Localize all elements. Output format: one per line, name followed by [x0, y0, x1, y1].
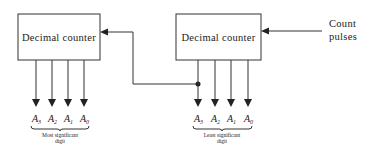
msd-bit-labels: A3 A2 A1 A0 Most significant digit	[31, 113, 89, 144]
lsd-output-lines	[194, 60, 252, 107]
pulses-label: pulses	[329, 31, 357, 42]
brace-icon	[31, 126, 89, 131]
counter-label-lsd: Decimal counter	[181, 32, 255, 43]
arrow-left-icon	[100, 29, 108, 36]
brace-icon	[193, 126, 252, 131]
lsd-bit-labels: A3 A2 A1 A0 Least significant digit	[193, 113, 253, 144]
arrow-down-icon	[244, 99, 252, 107]
bit-label-a1: A1	[226, 113, 236, 125]
counter-label-msd: Decimal counter	[22, 32, 96, 43]
bit-label-a2: A2	[47, 113, 57, 125]
bit-label-a0: A0	[79, 113, 89, 125]
arrow-down-icon	[48, 99, 56, 107]
counter-block-lsd: Decimal counter	[176, 14, 261, 60]
msd-output-lines	[32, 60, 88, 107]
count-label: Count	[329, 18, 356, 29]
bit-label-a3: A3	[193, 113, 203, 125]
bit-label-a1: A1	[63, 113, 73, 125]
bit-label-a0: A0	[243, 113, 253, 125]
count-pulses-input: Count pulses	[261, 18, 357, 42]
lsd-caption-line2: digit	[217, 138, 228, 144]
arrow-left-icon	[261, 28, 269, 35]
arrow-down-icon	[211, 99, 219, 107]
counter-diagram: Decimal counter Decimal counter Count pu…	[0, 0, 370, 153]
arrow-down-icon	[64, 99, 72, 107]
bit-label-a2: A2	[210, 113, 220, 125]
arrow-down-icon	[227, 99, 235, 107]
arrow-down-icon	[194, 99, 202, 107]
arrow-down-icon	[80, 99, 88, 107]
bit-label-a3: A3	[31, 113, 41, 125]
counter-block-msd: Decimal counter	[18, 14, 100, 60]
arrow-down-icon	[32, 99, 40, 107]
msd-caption-line2: digit	[55, 138, 66, 144]
